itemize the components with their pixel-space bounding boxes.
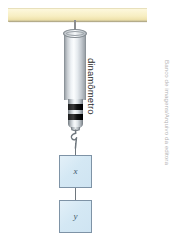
block-y-label: y [74,212,78,221]
dynamometer-body [64,34,86,100]
dynamometer-black-band-2 [68,114,83,120]
block-x-label: x [74,167,78,176]
ceiling-shadow [9,21,147,23]
physics-diagram-figure: x y dinamômetro Banco de imagens/Arquivo… [0,0,177,242]
dynamometer-label: dinamômetro [86,58,97,115]
image-credit-text: Banco de imagens/Arquivo da editora [164,60,171,165]
block-y: y [59,200,92,233]
block-x: x [59,155,92,188]
support-ceiling-bar [8,8,147,22]
dynamometer-black-band-1 [68,104,83,110]
dynamometer-top-cap-inner [66,31,84,36]
